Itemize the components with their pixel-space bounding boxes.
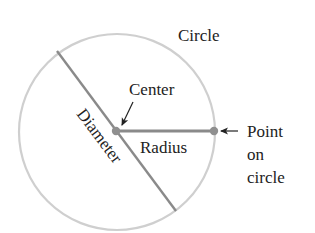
point-on-circle xyxy=(210,127,218,135)
radius-label: Radius xyxy=(140,138,187,157)
center-arrow-icon xyxy=(122,102,133,125)
circle-diagram: Circle Center Radius Diameter Point on c… xyxy=(0,0,315,233)
point-label-line2: on xyxy=(247,145,265,164)
diameter-label: Diameter xyxy=(73,105,126,167)
center-label: Center xyxy=(129,80,175,99)
point-label-line3: circle xyxy=(247,168,285,187)
title-label: Circle xyxy=(178,26,220,45)
center-point xyxy=(112,127,120,135)
point-label-line1: Point xyxy=(247,122,283,141)
